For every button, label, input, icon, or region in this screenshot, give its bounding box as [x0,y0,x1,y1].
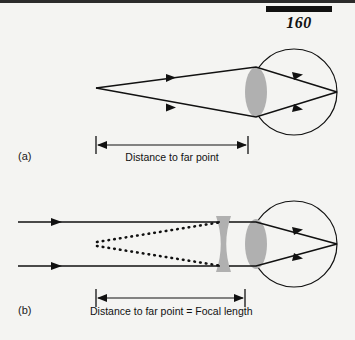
ray-arrowhead-a-1 [166,74,176,82]
panel-label-b: (b) [18,304,31,316]
ray-upper-a [96,67,337,92]
eye-lens-a [245,67,267,117]
ray-arrowhead-a-2 [166,104,176,112]
virtual-ray-lower-b [97,246,222,266]
panel-a-diagram [96,49,337,154]
virtual-ray-upper-b [97,222,222,242]
ray-lower-a [96,88,337,117]
figure-drawing [0,0,355,340]
caption-b: Distance to far point = Focal length [90,305,250,317]
eye-lens-b [245,219,267,269]
panel-b-diagram [18,201,337,307]
caption-a: Distance to far point [96,151,248,163]
ray-arrowhead-b-2 [51,262,62,270]
panel-label-a: (a) [18,150,31,162]
optics-figure: 160 [0,0,355,340]
corrective-concave-lens-body [216,216,231,272]
ray-arrowhead-b-1 [51,218,62,226]
